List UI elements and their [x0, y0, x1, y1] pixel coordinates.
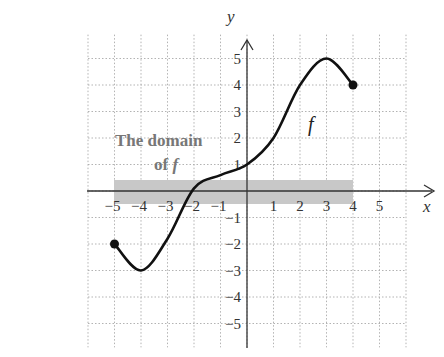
- domain-shading: [114, 180, 353, 204]
- y-tick-label: 2: [234, 130, 242, 146]
- x-tick-label: 4: [349, 198, 357, 214]
- right-endpoint: [349, 81, 358, 90]
- x-tick-label: 3: [323, 198, 331, 214]
- domain-annotation-line1: The domain: [115, 131, 203, 150]
- curve-label: f: [308, 113, 316, 136]
- x-tick-label: −5: [105, 198, 121, 214]
- domain-annotation-line2: of f: [154, 155, 180, 174]
- y-tick-label: −4: [225, 289, 241, 305]
- y-tick-label: 5: [234, 51, 242, 67]
- y-tick-label: 4: [234, 77, 242, 93]
- y-tick-label: −5: [225, 316, 241, 332]
- y-tick-label: −1: [225, 210, 241, 226]
- graph: −5−4−3−2−11234554321−1−2−3−4−5 x y The d…: [0, 0, 444, 357]
- left-endpoint: [110, 240, 119, 249]
- x-tick-label: −3: [158, 198, 174, 214]
- x-axis-label: x: [422, 197, 431, 216]
- y-tick-label: −2: [225, 236, 241, 252]
- x-tick-label: 2: [296, 198, 304, 214]
- x-tick-label: −4: [131, 198, 147, 214]
- x-tick-label: 1: [270, 198, 278, 214]
- x-tick-label: 5: [376, 198, 384, 214]
- y-tick-label: −3: [225, 263, 241, 279]
- y-axis-label: y: [225, 7, 235, 26]
- y-tick-label: 3: [234, 104, 242, 120]
